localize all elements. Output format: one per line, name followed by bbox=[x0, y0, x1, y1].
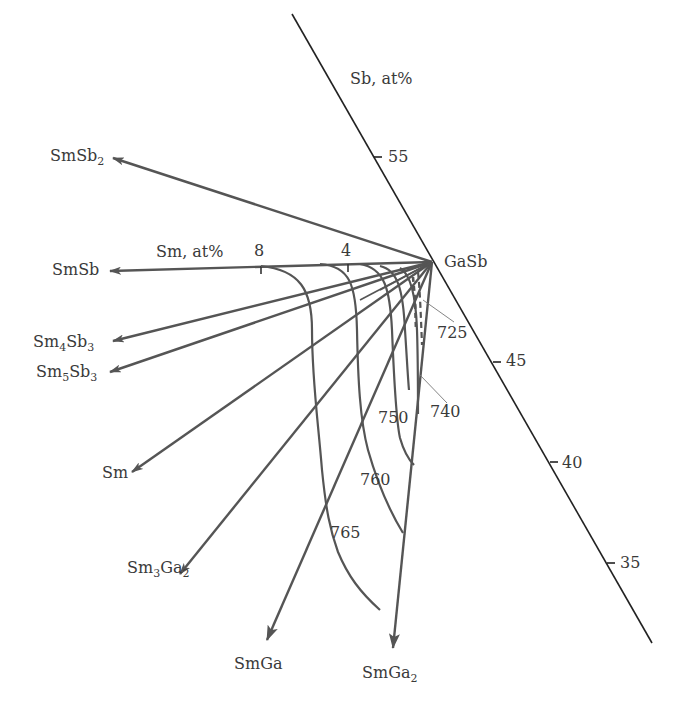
phase-diagram bbox=[0, 0, 676, 711]
leader-lines bbox=[420, 300, 454, 403]
tick-label-8: 8 bbox=[254, 243, 264, 259]
phase-label-smga2: SmGa2 bbox=[362, 665, 417, 681]
gasb-label: GaSb bbox=[444, 254, 488, 270]
sb-axis-label: Sb, at% bbox=[350, 71, 413, 87]
isotherm-725 bbox=[418, 272, 422, 345]
phase-label-smga: SmGa bbox=[234, 656, 282, 672]
tick-label-35: 35 bbox=[620, 555, 640, 571]
tie-line-smga2 bbox=[393, 262, 432, 648]
isotherm-label-750: 750 bbox=[378, 410, 409, 426]
sm-axis-label: Sm, at% bbox=[156, 244, 223, 260]
tick-label-45: 45 bbox=[506, 353, 526, 369]
tick-label-55: 55 bbox=[388, 149, 408, 165]
isotherm-label-765: 765 bbox=[330, 525, 361, 541]
sb-axis bbox=[292, 14, 652, 643]
isotherms bbox=[261, 264, 422, 610]
isotherm-765 bbox=[261, 266, 380, 610]
isotherm-label-725: 725 bbox=[437, 325, 468, 341]
isotherm-label-740: 740 bbox=[430, 404, 461, 420]
tie-line-sm5sb3 bbox=[110, 262, 432, 372]
tick-label-40: 40 bbox=[562, 455, 582, 471]
tie-line-sm4sb3 bbox=[113, 262, 432, 341]
phase-label-sm4sb3: Sm4Sb3 bbox=[33, 334, 94, 350]
phase-label-smsb2: SmSb2 bbox=[50, 148, 104, 164]
phase-label-sm: Sm bbox=[102, 465, 128, 481]
isotherm-label-760: 760 bbox=[360, 472, 391, 488]
phase-label-sm3ga2: Sm3Ga2 bbox=[127, 560, 189, 576]
phase-label-smsb: SmSb bbox=[52, 262, 99, 278]
phase-label-sm5sb3: Sm5Sb3 bbox=[36, 364, 97, 380]
tick-label-4: 4 bbox=[341, 243, 351, 259]
